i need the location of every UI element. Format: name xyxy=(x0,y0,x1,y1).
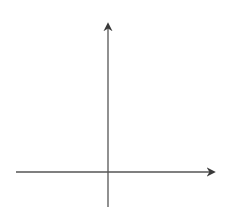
axes xyxy=(16,24,214,207)
curve-labels xyxy=(0,0,240,50)
coordinate-graph xyxy=(0,0,246,216)
